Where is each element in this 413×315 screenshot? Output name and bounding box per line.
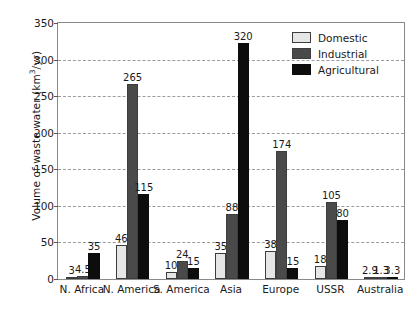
bar-column[interactable]: 3 (66, 23, 77, 279)
bar-value-label: 3 (68, 266, 74, 276)
bar-column[interactable]: 38 (265, 23, 276, 279)
x-axis-category-label: N. America (103, 283, 161, 295)
legend-swatch-agricultural (292, 64, 311, 75)
bar-value-label: 15 (287, 257, 300, 267)
bar-value-label: 46 (115, 234, 128, 244)
y-axis-tick-mark (54, 96, 58, 97)
bar-domestic[interactable]: 35 (215, 253, 226, 279)
bar-column[interactable]: 35 (215, 23, 226, 279)
bar-value-label: 115 (134, 183, 153, 193)
x-axis-category-label: S. America (153, 283, 210, 295)
legend-item-industrial[interactable]: Industrial (292, 46, 379, 61)
legend-swatch-domestic (292, 32, 311, 43)
bar-group: 3588320 (215, 23, 249, 279)
bar-value-label: 38 (264, 240, 277, 250)
bar-column[interactable]: 115 (138, 23, 149, 279)
bar-agricultural[interactable]: 35 (88, 253, 99, 279)
x-axis-category-label: USSR (316, 283, 344, 295)
bar-column[interactable]: 3.3 (387, 23, 398, 279)
y-axis-tick-label: 0 (47, 273, 54, 285)
legend-label: Domestic (318, 32, 367, 44)
y-axis-tick-mark (54, 206, 58, 207)
bar-chart: Volume of waste water (km3/yr) 050100150… (0, 0, 413, 315)
bar-column[interactable]: 320 (238, 23, 249, 279)
bar-agricultural[interactable]: 320 (238, 43, 249, 279)
y-axis-tick-mark (54, 169, 58, 170)
y-axis-tick-label: 350 (34, 17, 54, 29)
bar-agricultural[interactable]: 115 (138, 194, 149, 279)
y-axis-title-superscript: 3 (28, 69, 37, 74)
bar-group: 46265115 (116, 23, 150, 279)
y-axis-tick-mark (54, 279, 58, 280)
bar-column[interactable]: 15 (188, 23, 199, 279)
bar-agricultural[interactable]: 80 (337, 220, 348, 279)
bar-value-label: 10 (165, 261, 178, 271)
y-axis-tick-mark (54, 23, 58, 24)
bar-value-label: 18 (314, 255, 327, 265)
y-axis-tick-label: 50 (41, 236, 54, 248)
bar-industrial[interactable]: 1.3 (376, 277, 387, 279)
y-axis-tick-mark (54, 242, 58, 243)
bar-value-label: 35 (88, 242, 101, 252)
bar-value-label: 3.3 (384, 266, 400, 276)
x-axis-category-label: Asia (220, 283, 242, 295)
y-axis-tick-label: 200 (34, 127, 54, 139)
bar-column[interactable]: 88 (226, 23, 237, 279)
bar-domestic[interactable]: 10 (166, 272, 177, 279)
bar-industrial[interactable]: 4.5 (77, 276, 88, 279)
bar-value-label: 88 (226, 203, 239, 213)
y-axis-tick-label: 250 (34, 90, 54, 102)
y-axis-tick-label: 100 (34, 200, 54, 212)
y-axis-tick-label: 150 (34, 163, 54, 175)
legend-item-domestic[interactable]: Domestic (292, 30, 379, 45)
bar-column[interactable]: 24 (177, 23, 188, 279)
bar-column[interactable]: 46 (116, 23, 127, 279)
bar-column[interactable]: 265 (127, 23, 138, 279)
bar-domestic[interactable]: 46 (116, 245, 127, 279)
bar-column[interactable]: 174 (276, 23, 287, 279)
bar-group: 34.535 (66, 23, 100, 279)
x-axis-category-label: N. Africa (60, 283, 104, 295)
bar-domestic[interactable]: 18 (315, 266, 326, 279)
bar-value-label: 320 (234, 32, 253, 42)
legend: DomesticIndustrialAgricultural (292, 30, 379, 78)
bar-value-label: 15 (187, 257, 200, 267)
bar-group: 102415 (165, 23, 199, 279)
y-axis-tick-mark (54, 133, 58, 134)
bar-agricultural[interactable]: 15 (287, 268, 298, 279)
legend-label: Industrial (318, 48, 367, 60)
x-axis-category-label: Europe (262, 283, 299, 295)
y-axis-tick-label: 300 (34, 54, 54, 66)
bar-column[interactable]: 10 (166, 23, 177, 279)
legend-swatch-industrial (292, 48, 311, 59)
bar-domestic[interactable]: 3 (66, 277, 77, 279)
bar-value-label: 80 (336, 209, 349, 219)
y-axis-tick-mark (54, 60, 58, 61)
bar-agricultural[interactable]: 3.3 (387, 277, 398, 279)
bar-domestic[interactable]: 38 (265, 251, 276, 279)
x-axis-category-label: Australia (357, 283, 403, 295)
bar-agricultural[interactable]: 15 (188, 268, 199, 279)
bar-industrial[interactable]: 88 (226, 214, 237, 279)
bar-column[interactable]: 35 (88, 23, 99, 279)
legend-label: Agricultural (318, 64, 379, 76)
bar-domestic[interactable]: 2.9 (364, 277, 375, 279)
legend-item-agricultural[interactable]: Agricultural (292, 62, 379, 77)
bar-value-label: 35 (214, 242, 227, 252)
